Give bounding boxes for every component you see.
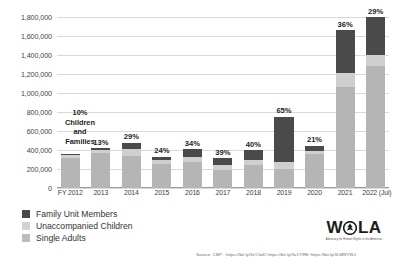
bar-segment-fam (336, 30, 355, 73)
stacked-bar[interactable]: 29% (122, 143, 141, 188)
wola-eagle-icon (343, 221, 357, 235)
x-axis-tick-label: 2013 (88, 189, 115, 203)
chart-legend: Family Unit MembersUnaccompanied Childre… (22, 209, 133, 246)
y-axis-tick-label: 800,000 (0, 108, 52, 117)
bar-percent-label: 65% (276, 106, 291, 115)
bar-segment-fam (366, 17, 385, 55)
bar-percent-label: 29% (124, 132, 139, 141)
bar-column[interactable]: 39% (210, 17, 237, 188)
bar-segment-single (336, 87, 355, 188)
bar-segment-fam (213, 158, 232, 165)
x-axis-tick-label: 2020 (301, 189, 328, 203)
wola-logo-tagline: Advocacy for Human Rights in the America… (318, 238, 390, 241)
source-note: Source: CBP - https://bit.ly/3xTJwD http… (196, 252, 356, 257)
bar-segment-single (183, 162, 202, 188)
x-axis-tick-labels: FY 2012201320142015201620172018201920202… (57, 189, 389, 203)
x-axis-tick-label: 2015 (149, 189, 176, 203)
y-axis-tick-label: 0 (0, 184, 52, 193)
x-axis-tick-label: 2017 (210, 189, 237, 203)
bar-percent-label: 34% (185, 139, 200, 148)
bar-segment-fam (183, 149, 202, 156)
y-axis-tick-label: 200,000 (0, 165, 52, 174)
bar-percent-label: 21% (307, 135, 322, 144)
y-axis-tick-label: 1,800,000 (0, 13, 52, 22)
bar-column[interactable]: 29% (118, 17, 145, 188)
y-axis-tick-label: 1,000,000 (0, 89, 52, 98)
bar-percent-label: 40% (246, 140, 261, 149)
bar-percent-label: 39% (215, 148, 230, 157)
bar-segment-single (61, 158, 80, 188)
bar-segment-unacc (366, 55, 385, 67)
bar-segment-single (122, 156, 141, 188)
x-axis-tick-label: 2022 (Jul) (362, 189, 389, 203)
y-axis-tick-label: 1,600,000 (0, 32, 52, 41)
bar-percent-label: 36% (337, 20, 352, 29)
children-and-families-annotation: 10%ChildrenandFamilies (58, 108, 102, 146)
bar-column[interactable]: 21% (301, 17, 328, 188)
legend-item[interactable]: Single Adults (22, 233, 133, 243)
x-axis-tick-label: FY 2012 (57, 189, 84, 203)
bar-segment-single (152, 164, 171, 188)
bar-column[interactable]: 65% (271, 17, 298, 188)
wola-logo-text-right: LA (358, 219, 382, 236)
wola-logo-mark: W LA (318, 219, 390, 236)
bar-segment-single (305, 154, 324, 188)
legend-swatch-icon (22, 210, 30, 218)
bar-segment-fam (244, 150, 263, 160)
y-axis-tick-label: 1,400,000 (0, 51, 52, 60)
y-axis-tick-label: 400,000 (0, 146, 52, 155)
legend-item[interactable]: Family Unit Members (22, 209, 133, 219)
legend-swatch-icon (22, 234, 30, 242)
bar-segment-unacc (336, 73, 355, 87)
bar-column[interactable]: 24% (149, 17, 176, 188)
annotation-line: and (58, 127, 102, 137)
y-axis-tick-label: 600,000 (0, 127, 52, 136)
x-axis-tick-label: 2014 (118, 189, 145, 203)
stacked-bar[interactable]: 13% (91, 148, 110, 188)
bar-percent-label: 24% (154, 146, 169, 155)
legend-label: Family Unit Members (36, 209, 117, 219)
bar-segment-single (274, 169, 293, 188)
x-axis-tick-label: 2018 (240, 189, 267, 203)
legend-label: Unaccompanied Children (36, 221, 133, 231)
wola-logo-text-left: W (326, 219, 343, 236)
bar-column[interactable]: 10% (57, 17, 84, 188)
bar-segment-fam (274, 117, 293, 162)
stacked-bar[interactable]: 29% (366, 17, 385, 188)
bar-segment-single (213, 170, 232, 188)
stacked-bar[interactable]: 40% (244, 150, 263, 188)
x-axis-tick-label: 2021 (332, 189, 359, 203)
bar-column[interactable]: 13% (88, 17, 115, 188)
stacked-bar[interactable]: 65% (274, 117, 293, 188)
bar-series-group: 10%13%29%24%34%39%40%65%21%36%29% (57, 17, 389, 188)
legend-swatch-icon (22, 222, 30, 230)
annotation-line: Children (58, 118, 102, 128)
annotation-line: 10% (58, 108, 102, 118)
stacked-bar[interactable]: 21% (305, 146, 324, 188)
bar-segment-unacc (274, 162, 293, 170)
bar-column[interactable]: 40% (240, 17, 267, 188)
bar-segment-single (366, 66, 385, 188)
chart-container: 0200,000400,000600,000800,0001,000,0001,… (0, 0, 404, 273)
x-axis-tick-label: 2016 (179, 189, 206, 203)
bar-column[interactable]: 36% (332, 17, 359, 188)
plot-area: 10%13%29%24%34%39%40%65%21%36%29% (57, 17, 389, 188)
legend-item[interactable]: Unaccompanied Children (22, 221, 133, 231)
bar-segment-single (244, 165, 263, 188)
stacked-bar[interactable]: 39% (213, 158, 232, 188)
bar-column[interactable]: 29% (362, 17, 389, 188)
stacked-bar[interactable]: 34% (183, 149, 202, 188)
y-axis-tick-label: 1,200,000 (0, 70, 52, 79)
bar-column[interactable]: 34% (179, 17, 206, 188)
bar-segment-single (91, 153, 110, 188)
x-axis-tick-label: 2019 (271, 189, 298, 203)
annotation-line: Families (58, 137, 102, 147)
stacked-bar[interactable]: 10% (61, 154, 80, 188)
stacked-bar[interactable]: 36% (336, 30, 355, 188)
legend-label: Single Adults (36, 233, 86, 243)
stacked-bar[interactable]: 24% (152, 157, 171, 188)
wola-logo: W LA Advocacy for Human Rights in the Am… (318, 219, 390, 241)
bar-percent-label: 29% (368, 7, 383, 16)
